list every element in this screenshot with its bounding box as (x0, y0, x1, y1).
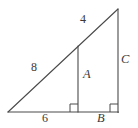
right-angle-marker-interior-icon (70, 104, 78, 112)
label-right-side: C (121, 53, 130, 65)
label-hypotenuse-lower: 8 (31, 61, 37, 73)
label-base-right: B (97, 112, 105, 124)
label-base-left: 6 (42, 112, 48, 124)
label-hypotenuse-upper: 4 (80, 13, 86, 25)
geometry-figure: 4 8 C A B 6 (0, 0, 138, 128)
triangle-drawing-canvas (0, 0, 138, 128)
right-angle-marker-corner-icon (110, 104, 118, 112)
hypotenuse-line (8, 9, 118, 112)
label-interior-vertical: A (83, 68, 91, 80)
